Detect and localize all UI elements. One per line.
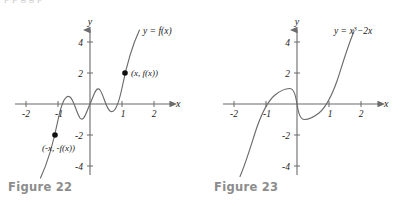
x-tick-label--1: -1	[55, 109, 63, 119]
y-tick-label--2: -2	[282, 131, 290, 141]
equation-tail: −2x	[357, 26, 373, 36]
x-tick-label-2: 2	[152, 109, 157, 119]
x-tick-label--2: -2	[230, 109, 238, 119]
y-tick-label-4: 4	[78, 38, 83, 48]
figure-23-plot: -2 -1 1 2 4 2 -2 -4 x y y = x3−2x	[206, 0, 413, 180]
x-tick-label-1: 1	[121, 109, 126, 119]
y-tick-label--4: -4	[282, 162, 290, 172]
point-label-x-fx: (x, f(x))	[131, 68, 158, 78]
x-tick-label-1: 1	[328, 109, 333, 119]
figure-22-plot: -2 -1 1 2 4 2 -2 -4 x y y = f(x) (x, f(x…	[0, 0, 207, 180]
figure-22: -2 -1 1 2 4 2 -2 -4 x y y = f(x) (x, f(x…	[0, 0, 207, 202]
figure-23: -2 -1 1 2 4 2 -2 -4 x y y = x3−2x Figure…	[206, 0, 413, 202]
figure-23-caption: Figure 23	[214, 180, 278, 194]
point-label-negx-negfx: (-x, -f(x))	[42, 143, 75, 153]
y-tick-label-2: 2	[285, 69, 290, 79]
x-tick-label--2: -2	[22, 109, 30, 119]
point-x-fx-marker	[122, 70, 128, 76]
x-axis-label: x	[175, 98, 181, 109]
y-tick-label--2: -2	[75, 131, 83, 141]
y-tick-label-2: 2	[78, 69, 83, 79]
y-tick-label-4: 4	[285, 38, 290, 48]
point-negx-negfx-marker	[52, 132, 58, 138]
figure-pair: -2 -1 1 2 4 2 -2 -4 x y y = f(x) (x, f(x…	[0, 0, 413, 202]
equation-label: y = x3−2x	[333, 25, 373, 36]
equation-label: y = f(x)	[142, 26, 172, 37]
equation-base: y = x	[333, 26, 354, 36]
y-axis-label: y	[87, 16, 93, 27]
x-axis-label: x	[383, 98, 389, 109]
figure-22-caption: Figure 22	[8, 180, 72, 194]
y-axis-label: y	[294, 16, 300, 27]
y-tick-label--4: -4	[75, 162, 83, 172]
x-tick-label-2: 2	[359, 109, 364, 119]
x-tick-label--1: -1	[263, 109, 271, 119]
